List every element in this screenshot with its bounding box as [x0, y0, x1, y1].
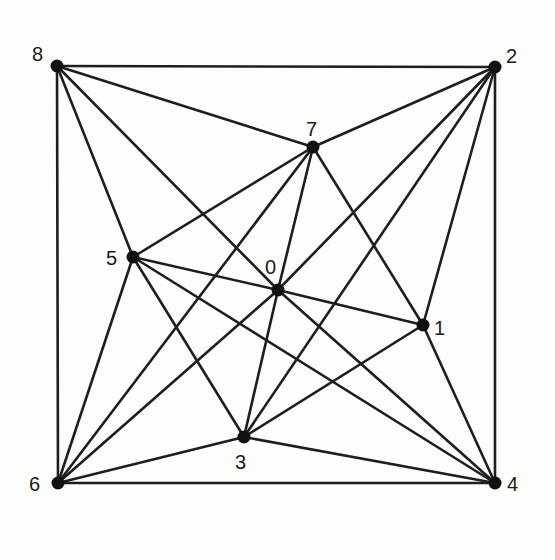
node-4: [489, 477, 502, 490]
node-7: [307, 141, 320, 154]
node-label-6: 6: [29, 474, 40, 494]
node-3: [238, 431, 251, 444]
graph-canvas: [0, 0, 555, 560]
graph-diagram: 012345678: [0, 0, 555, 560]
edge-0-3: [244, 290, 278, 437]
edge-8-6: [57, 66, 58, 483]
node-6: [52, 477, 65, 490]
edge-8-2: [57, 66, 495, 67]
edge-0-1: [278, 290, 423, 325]
node-label-2: 2: [506, 46, 517, 66]
edge-7-5: [133, 147, 313, 257]
node-label-1: 1: [434, 318, 445, 338]
node-2: [489, 61, 502, 74]
edge-5-3: [133, 257, 244, 437]
node-label-5: 5: [106, 248, 117, 268]
node-8: [51, 60, 64, 73]
edge-8-5: [57, 66, 133, 257]
edge-2-0: [278, 67, 495, 290]
edge-5-0: [133, 257, 278, 290]
node-0: [272, 284, 285, 297]
node-label-8: 8: [32, 44, 43, 64]
node-label-7: 7: [306, 119, 317, 139]
node-1: [417, 319, 430, 332]
node-5: [127, 251, 140, 264]
node-label-0: 0: [265, 257, 276, 277]
node-label-4: 4: [507, 474, 518, 494]
edge-4-0: [278, 290, 495, 483]
node-label-3: 3: [235, 452, 246, 472]
